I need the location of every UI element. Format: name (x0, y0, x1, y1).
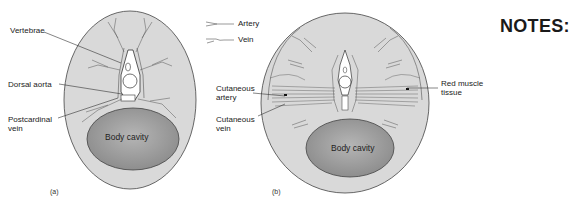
fish-cross-section-b (261, 13, 429, 193)
notes-heading: NOTES: (500, 16, 570, 37)
label-dorsal-aorta: Dorsal aorta (8, 80, 52, 89)
label-cutaneous-vein: Cutaneous vein (216, 115, 255, 133)
label-vertebrae: Vertebrae (10, 26, 45, 35)
fish-cross-section-a (64, 11, 196, 189)
label-red-muscle-tissue: Red muscle tissue (441, 79, 483, 97)
label-body-cavity-b: Body cavity (331, 143, 374, 153)
label-postcardinal-vein: Postcardinal vein (8, 115, 52, 133)
legend (206, 22, 234, 43)
label-cutaneous-artery: Cutaneous artery (216, 84, 255, 102)
legend-label-artery: Artery (238, 19, 259, 28)
label-body-cavity-a: Body cavity (105, 132, 148, 142)
artery-line-icon (206, 22, 234, 26)
caption-b: (b) (272, 188, 281, 195)
vein-line-icon (206, 39, 234, 43)
caption-a: (a) (50, 188, 59, 195)
legend-label-vein: Vein (238, 35, 254, 44)
